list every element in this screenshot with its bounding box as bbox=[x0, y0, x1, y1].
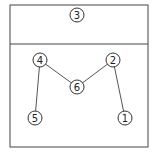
label-3: 3 bbox=[70, 8, 85, 23]
label-6: 6 bbox=[70, 80, 85, 95]
label-1: 1 bbox=[118, 111, 133, 126]
label-2: 2 bbox=[106, 53, 121, 68]
label-5: 5 bbox=[28, 111, 43, 126]
label-4: 4 bbox=[33, 53, 48, 68]
outer-frame bbox=[10, 5, 148, 147]
